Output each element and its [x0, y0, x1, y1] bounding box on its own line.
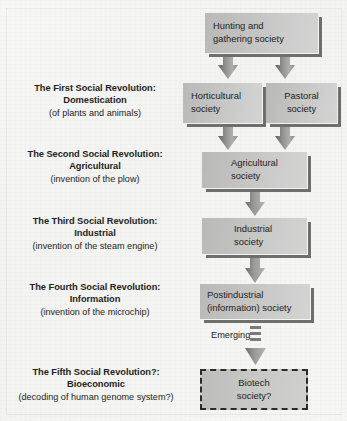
node-horticultural-society: Horticultural society [183, 83, 262, 123]
revolution-label-line1: The Fifth Social Revolution?: [1, 366, 191, 378]
revolution-label-line3: (invention of the microchip) [8, 306, 182, 318]
revolution-label-line1: The Third Social Revolution: [4, 215, 186, 227]
down-arrow-icon-industrial-to-postindustrial [245, 255, 265, 283]
box-shadow-bottom [204, 320, 314, 323]
down-arrow-icon-horticultural-to-agricultural [218, 124, 238, 150]
node-label-line1: Agricultural [231, 157, 307, 170]
revolution-label-line3: (invention of the plow) [8, 173, 182, 185]
revolution-label-fourth: The Fourth Social Revolution: Informatio… [8, 281, 182, 318]
node-label-line1: Industrial [234, 223, 307, 236]
node-label-line1: Biotech [238, 377, 269, 390]
node-postindustrial-information-society: Postindustrial (information) society [200, 284, 310, 319]
revolution-label-line1: The First Social Revolution: [8, 82, 182, 94]
box-shadow-right [338, 87, 341, 127]
down-arrow-icon-pastoral-to-agricultural [275, 124, 295, 150]
box-shadow-bottom [206, 189, 311, 192]
node-label-line2: society [191, 103, 262, 116]
revolution-label-line2: Bioeconomic [1, 378, 191, 390]
revolution-label-line3: (of plants and animals) [8, 107, 182, 119]
node-industrial-society: Industrial society [202, 218, 307, 254]
down-arrow-icon-hunting-to-pastoral [275, 54, 295, 79]
node-hunting-and-gathering-society: Hunting and gathering society [205, 13, 318, 53]
revolution-label-line1: The Second Social Revolution: [8, 148, 182, 160]
node-label-line1: Hunting and [213, 20, 318, 33]
node-label-line1: Pastoral [284, 90, 318, 103]
revolution-label-line3: (decoding of human genome system?) [1, 391, 191, 403]
arrows-layer [0, 0, 347, 421]
revolution-label-line3: (invention of the steam engine) [4, 240, 186, 252]
node-label-line2: society [234, 236, 307, 249]
dashed-down-arrow-icon-postindustrial-to-biotech [245, 320, 266, 365]
node-agricultural-society: Agricultural society [202, 152, 307, 188]
revolution-label-line2: Domestication [8, 94, 182, 106]
box-shadow-bottom [209, 54, 322, 57]
revolution-label-line2: Industrial [4, 227, 186, 239]
revolution-label-second: The Second Social Revolution: Agricultur… [8, 148, 182, 185]
revolution-label-line2: Information [8, 293, 182, 305]
node-label-line2: society [231, 170, 307, 183]
revolution-label-line1: The Fourth Social Revolution: [8, 281, 182, 293]
down-arrow-icon-agricultural-to-industrial [245, 190, 265, 216]
revolution-label-line2: Agricultural [8, 160, 182, 172]
box-shadow-right [308, 222, 311, 258]
node-label-line1: Postindustrial [207, 289, 310, 302]
node-biotech-society: Biotech society? [200, 369, 308, 410]
box-shadow-bottom [206, 255, 311, 258]
node-label-line2: society? [237, 390, 271, 403]
node-pastoral-society: Pastoral society [266, 83, 337, 123]
box-shadow-right [308, 156, 311, 192]
node-label-line1: Horticultural [191, 90, 262, 103]
revolution-label-fifth: The Fifth Social Revolution?: Bioeconomi… [1, 366, 191, 403]
box-shadow-bottom [270, 124, 341, 127]
revolution-label-third: The Third Social Revolution: Industrial … [4, 215, 186, 252]
social-revolutions-diagram: The First Social Revolution: Domesticati… [0, 0, 347, 421]
node-label-line2: gathering society [213, 33, 318, 46]
emerging-annotation: Emerging [211, 330, 250, 340]
box-shadow-right [311, 288, 314, 323]
box-shadow-bottom [187, 124, 266, 127]
box-shadow-right [319, 17, 322, 57]
node-label-line2: society [287, 103, 316, 116]
down-arrow-icon-hunting-to-horticultural [218, 54, 238, 79]
revolution-label-first: The First Social Revolution: Domesticati… [8, 82, 182, 119]
node-label-line2: (information) society [207, 302, 310, 315]
